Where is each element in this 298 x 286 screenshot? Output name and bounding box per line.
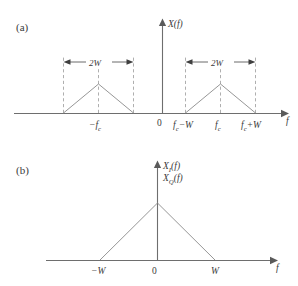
panel-a-spectrum-bandpass: (a) X(f) f 0 2W −fc [0,0,298,143]
figure-container: (a) X(f) f 0 2W −fc [0,0,298,286]
panel-b-tag: (b) [16,164,29,177]
panel-a-tag: (a) [16,21,29,34]
panel-a-tick-neg-fc: −fc [89,120,101,132]
panel-a-left-dimension-label: 2W [89,58,103,68]
panel-a-y-axis-label: X(f) [167,19,183,30]
panel-a-left-dimension-arrow-right [127,59,134,65]
panel-b-x-axis-label: f [276,263,280,273]
panel-b-origin-label: 0 [152,266,157,276]
panel-a-left-dimension-arrow-left [64,59,71,65]
panel-b-tick-neg-w: −W [91,266,106,276]
panel-a-origin-label: 0 [157,118,162,128]
panel-a-right-dimension-arrow-left [186,59,193,65]
panel-b-spectrum-lowpass: (b) XI(f) XQ(f) f −W 0 W [0,143,298,286]
panel-b-y-axis-label-quadrature: XQ(f) [162,173,183,185]
panel-a-tick-fc-plus-w: fc+W [241,120,262,132]
panel-a-tick-fc: fc [215,120,221,132]
panel-b-y-axis-arrowhead [154,161,161,169]
panel-a-right-dimension-label: 2W [211,58,225,68]
panel-a-tick-fc-minus-w: fc−W [173,120,194,132]
panel-a-right-dimension-arrow-right [249,59,256,65]
panel-a-x-axis-label: f [286,116,290,126]
panel-b-y-axis-label-inphase: XI(f) [162,161,180,173]
panel-b-tick-pos-w: W [211,266,220,276]
panel-a-y-axis-arrowhead [159,19,166,27]
